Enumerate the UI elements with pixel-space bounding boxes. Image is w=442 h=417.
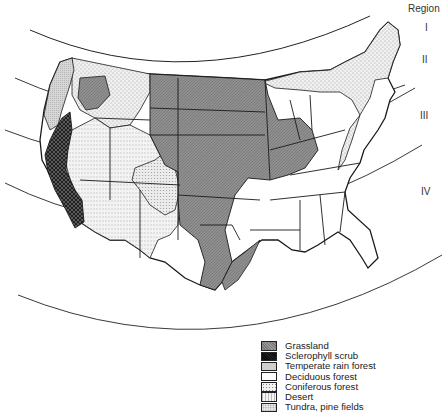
swatch-rainforest — [261, 362, 277, 371]
swatch-sclerophyll — [261, 352, 277, 361]
region-label-1: I — [425, 22, 428, 33]
map-legend: Grassland Sclerophyll scrub Temperate ra… — [261, 341, 376, 412]
region-header: Region — [408, 3, 440, 14]
swatch-coniferous — [261, 382, 277, 391]
swatch-desert — [261, 392, 277, 401]
swatch-deciduous — [261, 372, 277, 381]
legend-item-tundra: Tundra, pine fields — [261, 402, 376, 412]
legend-label: Temperate rain forest — [285, 361, 376, 371]
region-label-3: III — [420, 110, 428, 121]
region-label-4: IV — [421, 186, 430, 197]
region-label-2: II — [422, 54, 428, 65]
swatch-grassland — [261, 341, 277, 350]
swatch-tundra — [261, 403, 277, 412]
legend-item-coniferous: Coniferous forest — [261, 382, 376, 392]
region-arc-1 — [30, 16, 370, 62]
biome-map — [0, 0, 442, 417]
legend-label: Tundra, pine fields — [285, 402, 364, 412]
